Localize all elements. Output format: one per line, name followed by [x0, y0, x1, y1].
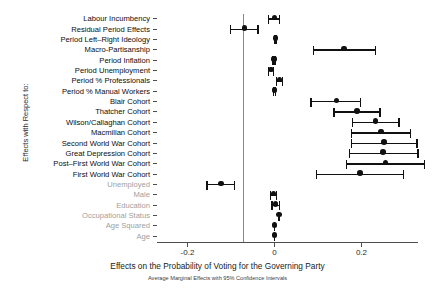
y-axis-tick — [153, 132, 157, 133]
ci-cap-upper — [424, 160, 425, 169]
x-axis-tick-label: 0 — [272, 248, 276, 257]
estimate-marker — [378, 129, 384, 135]
x-axis-tick-label: 0.2 — [356, 248, 367, 257]
ci-cap-lower — [313, 46, 314, 55]
y-axis-tick — [153, 60, 157, 61]
estimate-marker — [268, 67, 274, 73]
ci-cap-upper — [282, 77, 283, 86]
chart-subtitle: Average Marginal Effects with 95% Confid… — [0, 275, 435, 281]
estimate-marker — [373, 118, 379, 124]
ci-cap-lower — [349, 149, 350, 158]
plot-area: Labour IncumbencyResidual Period Effects… — [157, 14, 418, 242]
estimate-marker — [273, 35, 279, 41]
y-axis-tick — [153, 174, 157, 175]
ci-cap-upper — [398, 118, 399, 127]
y-axis-tick — [153, 122, 157, 123]
y-axis-tick — [153, 29, 157, 30]
y-axis-tick — [153, 205, 157, 206]
ci-cap-lower — [316, 170, 317, 179]
x-axis-tick — [361, 243, 362, 247]
estimate-marker — [276, 212, 282, 218]
ci-cap-lower — [310, 98, 311, 107]
estimate-marker — [271, 56, 277, 62]
ci-cap-upper — [403, 170, 404, 179]
estimate-marker — [272, 87, 278, 93]
ci-cap-lower — [351, 129, 352, 138]
ci-cap-upper — [360, 98, 361, 107]
estimate-marker — [380, 149, 386, 155]
y-axis-tick — [153, 70, 157, 71]
ci-cap-upper — [379, 108, 380, 117]
ci-cap-upper — [234, 181, 235, 190]
y-axis-tick — [153, 194, 157, 195]
ci-cap-lower — [268, 15, 269, 24]
forest-row: Age — [157, 231, 418, 243]
estimate-marker — [381, 139, 387, 145]
ci-cap-lower — [333, 108, 334, 117]
ci-cap-lower — [351, 139, 352, 148]
y-axis-tick — [153, 236, 157, 237]
category-label: Age — [136, 231, 150, 243]
estimate-marker — [218, 181, 224, 187]
x-axis-title: Effects on the Probability of Voting for… — [0, 261, 435, 271]
ci-cap-upper — [279, 15, 280, 24]
y-axis-tick — [153, 111, 157, 112]
y-axis-tick — [153, 153, 157, 154]
estimate-marker — [357, 170, 363, 176]
ci-cap-upper — [257, 25, 258, 34]
ci-cap-lower — [352, 118, 353, 127]
ci-cap-upper — [276, 191, 277, 200]
ci-cap-lower — [346, 160, 347, 169]
x-axis-tick-label: -0.2 — [181, 248, 195, 257]
estimate-marker — [272, 222, 278, 228]
y-axis-tick — [153, 49, 157, 50]
y-axis-tick — [153, 18, 157, 19]
estimate-marker — [272, 232, 278, 238]
estimate-marker — [242, 25, 248, 31]
y-axis-tick — [153, 215, 157, 216]
y-axis-tick — [153, 80, 157, 81]
y-axis-tick — [153, 184, 157, 185]
ci-cap-lower — [206, 181, 207, 190]
x-axis-tick — [274, 243, 275, 247]
y-axis-tick — [153, 163, 157, 164]
estimate-marker — [273, 201, 279, 207]
ci-cap-upper — [410, 129, 411, 138]
ci-cap-upper — [417, 149, 418, 158]
y-axis-tick — [153, 143, 157, 144]
y-axis-title: Effects with Respect to: — [21, 43, 30, 203]
ci-cap-upper — [416, 139, 417, 148]
ci-cap-upper — [375, 46, 376, 55]
estimate-marker — [354, 108, 360, 114]
x-axis-tick — [187, 243, 188, 247]
y-axis-tick — [153, 225, 157, 226]
ci-cap-lower — [230, 25, 231, 34]
forest-plot-figure: Effects with Respect to: Labour Incumben… — [0, 0, 435, 295]
ci-cap-upper — [279, 201, 280, 210]
y-axis-tick — [153, 91, 157, 92]
y-axis-tick — [153, 101, 157, 102]
y-axis-tick — [153, 39, 157, 40]
